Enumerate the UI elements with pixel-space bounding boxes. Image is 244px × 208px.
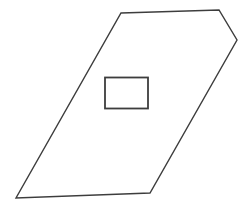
figure-canvas [0, 0, 244, 208]
geometry-figure-svg [0, 0, 244, 208]
figure-background [0, 0, 244, 208]
